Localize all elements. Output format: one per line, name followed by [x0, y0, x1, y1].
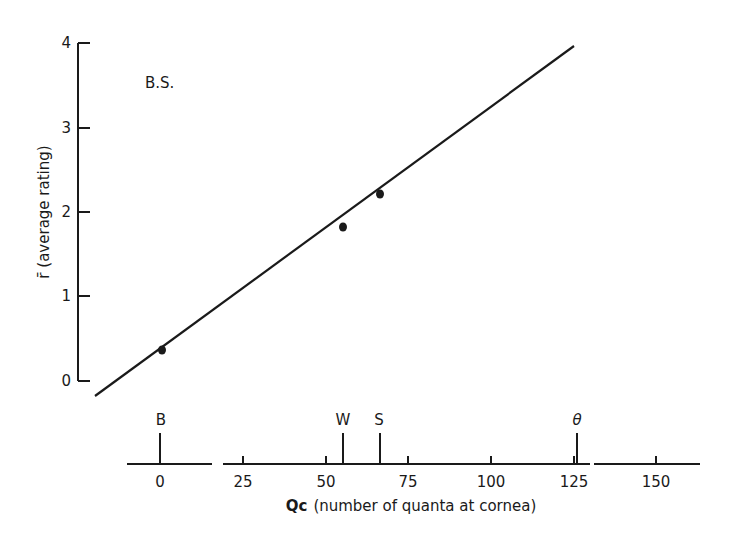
y-tick-label: 0: [61, 372, 71, 390]
y-tick-label: 3: [61, 119, 71, 137]
y-axis: [78, 43, 90, 381]
x-tick-labels: 0 25 50 75 100 125 150: [155, 473, 670, 491]
fit-line: [95, 46, 574, 396]
data-point: [376, 190, 384, 199]
y-tick-label: 1: [61, 287, 71, 305]
x-axis: [127, 456, 700, 464]
x-tick-label: 50: [316, 473, 335, 491]
x-tick-label: 125: [560, 473, 589, 491]
y-tick-label: 4: [61, 34, 71, 52]
y-tick-labels: 0 1 2 3 4: [61, 34, 71, 390]
data-point: [158, 346, 166, 355]
marker-label-theta: θ: [572, 411, 581, 429]
x-tick-label: 75: [398, 473, 417, 491]
y-axis-label: r̄ (average rating): [35, 145, 53, 278]
chart: 0 1 2 3 4 r̄ (average rating) B.S. B W S: [0, 0, 733, 554]
marker-label-s: S: [374, 411, 384, 429]
marker-ticks: [160, 433, 577, 464]
x-axis-label-symbol: Qc: [286, 497, 308, 515]
x-tick-label: 150: [642, 473, 671, 491]
subject-annotation: B.S.: [145, 74, 174, 92]
x-tick-label: 100: [477, 473, 506, 491]
x-axis-label: Qc(number of quanta at cornea): [286, 497, 537, 515]
x-tick-label: 25: [233, 473, 252, 491]
data-points: [158, 190, 384, 355]
y-tick-label: 2: [61, 203, 71, 221]
data-point: [339, 223, 347, 232]
marker-label-b: B: [156, 411, 166, 429]
marker-labels: B W S θ: [156, 411, 582, 429]
marker-label-w: W: [336, 411, 351, 429]
x-axis-label-text: (number of quanta at cornea): [313, 497, 536, 515]
x-tick-label: 0: [155, 473, 165, 491]
